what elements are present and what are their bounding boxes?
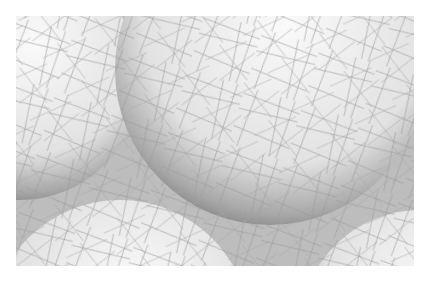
string-web-secondary bbox=[16, 16, 414, 266]
string-spheres-artwork bbox=[16, 16, 414, 266]
artwork-image bbox=[16, 16, 414, 266]
